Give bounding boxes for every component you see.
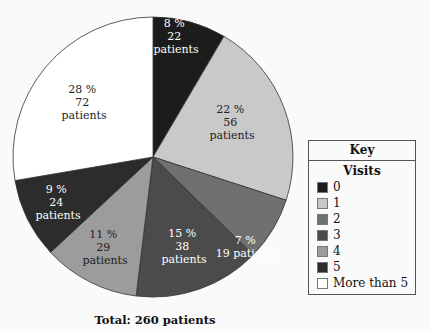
legend-label: 4: [333, 244, 341, 258]
legend-swatch: [317, 246, 328, 257]
legend-swatch: [317, 214, 328, 225]
legend-subtitle: Visits: [309, 161, 415, 179]
legend-label: 2: [333, 212, 341, 226]
legend-item: More than 5: [309, 275, 415, 291]
legend-items: 0 1 2 3 4 5 More than 5: [309, 179, 415, 294]
legend-item: 0: [309, 179, 415, 195]
legend-swatch: [317, 230, 328, 241]
legend-label: 3: [333, 228, 341, 242]
pie-chart: 8 % 22 patients 22 % 56 patients 7 % 19 …: [0, 0, 310, 310]
legend-label: 5: [333, 260, 341, 274]
legend-item: 2: [309, 211, 415, 227]
legend: Key Visits 0 1 2 3 4 5 More than 5: [308, 140, 416, 295]
legend-label: 0: [333, 180, 341, 194]
chart-footer-total: Total: 260 patients: [0, 313, 310, 327]
legend-item: 4: [309, 243, 415, 259]
legend-item: 3: [309, 227, 415, 243]
legend-swatch: [317, 182, 328, 193]
legend-swatch: [317, 262, 328, 273]
legend-item: 5: [309, 259, 415, 275]
legend-item: 1: [309, 195, 415, 211]
legend-label: More than 5: [333, 276, 408, 290]
legend-swatch: [317, 198, 328, 209]
legend-label: 1: [333, 196, 341, 210]
legend-swatch: [317, 278, 328, 289]
legend-title: Key: [309, 141, 415, 161]
